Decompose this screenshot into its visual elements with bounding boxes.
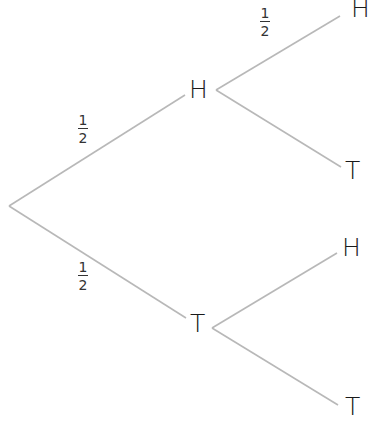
node-h-level1: H (189, 77, 208, 102)
numerator: 1 (79, 260, 88, 274)
probability-tree-diagram: H T H T H T 1 2 1 2 1 2 (0, 0, 369, 427)
edge-t-to-h (212, 253, 337, 328)
numerator: 1 (79, 113, 88, 127)
denominator: 2 (261, 24, 270, 38)
fraction-bar (78, 128, 88, 129)
probability-root-h: 1 2 (76, 113, 90, 145)
probability-h-h: 1 2 (258, 6, 272, 38)
node-th-leaf: H (342, 235, 361, 260)
edge-t-to-t (212, 328, 338, 405)
edge-root-to-t (9, 206, 186, 318)
denominator: 2 (79, 278, 88, 292)
denominator: 2 (79, 131, 88, 145)
node-hh-leaf: H (351, 0, 369, 21)
node-tt-leaf: T (345, 394, 360, 419)
node-ht-leaf: T (345, 158, 360, 183)
probability-root-t: 1 2 (76, 260, 90, 292)
tree-edges (0, 0, 369, 427)
fraction-bar (260, 21, 270, 22)
fraction-bar (78, 275, 88, 276)
edge-h-to-h (216, 16, 340, 90)
node-t-level1: T (190, 311, 205, 336)
edge-root-to-h (9, 95, 185, 206)
edge-h-to-t (216, 90, 341, 167)
numerator: 1 (261, 6, 270, 20)
